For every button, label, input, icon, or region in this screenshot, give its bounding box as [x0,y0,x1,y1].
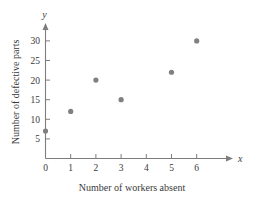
plot-canvas: 510152025300123456 yxNumber of workers a… [0,0,257,204]
y-axis-tick-label: 15 [31,95,41,105]
x-axis-tick-label: 1 [68,163,73,173]
y-axis-tick-label: 30 [31,36,41,46]
x-axis-tick-label: 0 [43,163,48,173]
y-axis-tick-label: 5 [35,134,40,144]
data-point [119,97,124,102]
y-axis-tick-label: 10 [31,115,41,125]
x-axis-title: Number of workers absent [79,182,186,193]
data-point [169,70,174,75]
axes-group [43,23,234,162]
x-axis-tick-label: 2 [94,163,99,173]
x-axis-variable-label: x [237,153,243,164]
y-axis-tick-label: 25 [31,56,41,66]
data-points-group [43,38,199,133]
x-axis-tick-label: 3 [119,163,124,173]
tick-labels-group: 510152025300123456 [31,36,200,172]
scatter-plot-figure: 510152025300123456 yxNumber of workers a… [0,0,257,204]
x-axis-arrow-icon [226,156,233,162]
data-point [93,78,98,83]
x-axis-tick-label: 5 [169,163,174,173]
data-point [43,128,48,133]
y-axis-arrow-icon [43,23,49,30]
y-axis-variable-label: y [41,9,47,20]
data-point [194,38,199,43]
y-axis-title: Number of defective parts [10,40,21,145]
y-axis-tick-label: 20 [31,76,41,86]
data-point [68,109,73,114]
x-axis-tick-label: 6 [194,163,199,173]
x-axis-tick-label: 4 [144,163,149,173]
